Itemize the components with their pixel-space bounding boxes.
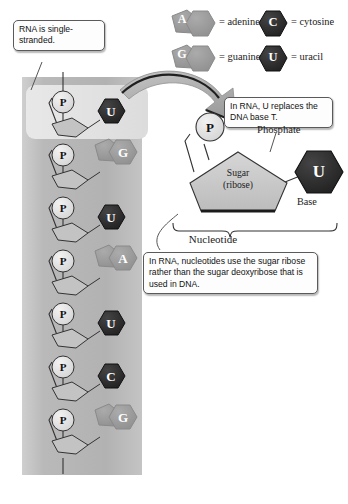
detail-phosphate-circle — [196, 113, 224, 141]
legend-equals-guanine: = — [219, 51, 225, 62]
legend-shape-guanine — [172, 45, 215, 71]
detail-sugar-label-line2: (ribose) — [203, 179, 273, 191]
detail-phosphate-label: Phosphate — [257, 124, 301, 135]
legend-shape-cytosine — [259, 11, 287, 36]
callout-leader-u-replaces — [270, 133, 276, 152]
legend-label-uracil: uracil — [299, 51, 323, 62]
callout-ribose-note: In RNA, nucleotides use the sugar ribose… — [143, 252, 318, 294]
legend-label-adenine: adenine — [227, 16, 259, 27]
base-purine — [95, 404, 137, 429]
base-purine — [95, 139, 137, 164]
legend-shape-uracil — [259, 46, 287, 71]
nucleotide-bracket-label: Nucleotide — [0, 233, 348, 245]
legend-text-adenine: = adenine — [219, 16, 260, 27]
legend-label-guanine: guanine — [227, 51, 260, 62]
detail-base-label: Base — [297, 196, 317, 207]
legend-text-guanine: = guanine — [219, 51, 260, 62]
legend-equals-adenine: = — [219, 16, 225, 27]
base-purine — [95, 245, 137, 270]
legend-label-cytosine: cytosine — [299, 16, 334, 27]
callout-single-stranded: RNA is single-stranded. — [13, 20, 105, 51]
legend-text-uracil: = uracil — [291, 51, 323, 62]
legend-equals-cytosine: = — [291, 16, 297, 27]
legend-text-cytosine: = cytosine — [291, 16, 334, 27]
figure-canvas: RNA is single-stranded. In RNA, U replac… — [0, 0, 348, 504]
legend-equals-uracil: = — [291, 51, 297, 62]
detail-sugar-label-line1: Sugar — [203, 167, 273, 179]
detail-base-hexagon — [295, 151, 343, 193]
legend-shape-adenine — [172, 10, 215, 36]
